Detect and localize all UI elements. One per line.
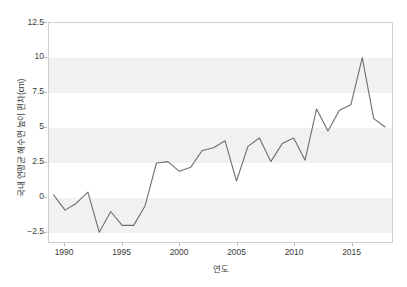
x-tick-label: 1990 [44,247,84,257]
y-tick-mark [44,127,47,128]
x-tick-mark [179,243,180,246]
x-tick-mark [352,243,353,246]
x-tick-label: 1995 [102,247,142,257]
sea-level-line-series [49,23,392,242]
x-axis-title: 연도 [48,262,393,274]
y-axis-tick-labels: −2.502.557.51012.5 [0,0,44,287]
x-tick-label: 2005 [217,247,257,257]
x-tick-mark [122,243,123,246]
y-tick-label: 10 [2,52,44,61]
x-tick-mark [237,243,238,246]
y-tick-mark [44,197,47,198]
y-tick-mark [44,162,47,163]
plot-area [48,22,393,243]
y-tick-mark [44,92,47,93]
y-tick-mark [44,22,47,23]
y-tick-label: 12.5 [2,18,44,27]
chart-figure: 국내 연평균 해수면 높이 편차(cm) −2.502.557.51012.5 … [0,0,407,287]
x-tick-mark [294,243,295,246]
y-tick-label: 2.5 [2,157,44,166]
y-tick-label: 0 [2,192,44,201]
y-tick-label: −2.5 [2,227,44,236]
y-tick-mark [44,232,47,233]
y-tick-label: 5 [2,122,44,131]
x-tick-mark [64,243,65,246]
x-tick-label: 2015 [332,247,372,257]
y-tick-label: 7.5 [2,87,44,96]
x-tick-label: 2010 [274,247,314,257]
series-polyline [54,58,386,233]
x-tick-label: 2000 [159,247,199,257]
y-tick-mark [44,57,47,58]
